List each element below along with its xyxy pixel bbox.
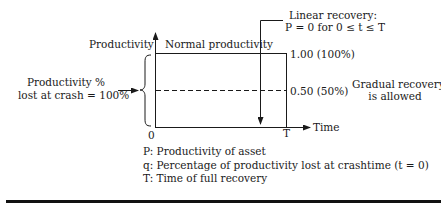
full-level-label: 1.00 (100%): [290, 48, 355, 60]
linear-recovery-label-line1: Linear recovery:: [289, 9, 377, 21]
lost-at-crash-label-line2: lost at crash = 100%: [18, 89, 114, 101]
t-label: T: [283, 127, 290, 139]
legend-item-q: q: Percentage of productivity lost at cr…: [143, 159, 429, 173]
x-axis-label: Time: [313, 121, 340, 133]
normal-productivity-label: Normal productivity: [165, 38, 273, 50]
legend: P: Productivity of asset q: Percentage o…: [143, 145, 429, 186]
legend-item-p: P: Productivity of asset: [143, 145, 429, 159]
gradual-recovery-label-line2: is allowed: [352, 90, 438, 102]
bottom-rule: [6, 200, 441, 203]
gradual-recovery-label-line1: Gradual recovery: [352, 78, 438, 90]
legend-item-t: T: Time of full recovery: [143, 172, 429, 186]
linear-recovery-pointer: [261, 21, 284, 125]
origin-label: 0: [148, 129, 155, 141]
y-axis-label: Productivity: [89, 38, 154, 50]
lost-productivity-brace: [140, 55, 151, 126]
half-level-label: 0.50 (50%): [290, 85, 348, 97]
linear-recovery-label-line2: P = 0 for 0 ≤ t ≤ T: [285, 21, 385, 33]
lost-at-crash-label-line1: Productivity %: [18, 76, 114, 88]
